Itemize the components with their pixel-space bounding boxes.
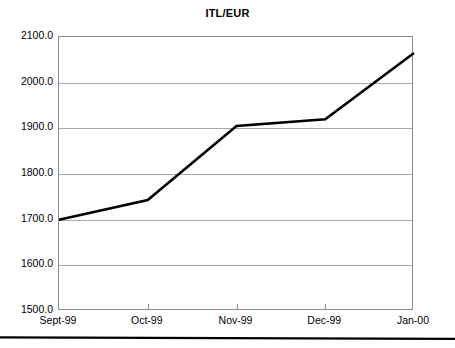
y-axis-tick-label: 1700.0 [3, 213, 53, 224]
y-axis-tick-label: 1900.0 [3, 121, 53, 132]
chart-figure: ITL/EUR 1500.01600.01700.01800.01900.020… [0, 0, 455, 348]
x-axis-tick-label: Jan-00 [373, 314, 453, 326]
y-axis-tick-label: 2000.0 [3, 76, 53, 87]
y-axis-tick-label: 1600.0 [3, 258, 53, 269]
bottom-rule-divider [0, 336, 455, 340]
data-series-line [59, 37, 414, 311]
chart-title: ITL/EUR [0, 7, 455, 19]
y-axis-tick-label: 2100.0 [3, 30, 53, 41]
y-axis-tick-label: 1800.0 [3, 167, 53, 178]
x-axis-tick-label: Dec-99 [284, 314, 364, 326]
x-axis-tick-label: Nov-99 [196, 314, 276, 326]
series-polyline-itl-eur [59, 53, 414, 220]
plot-area [58, 36, 413, 310]
x-axis-tick-label: Oct-99 [107, 314, 187, 326]
x-axis-tick-label: Sept-99 [18, 314, 98, 326]
y-axis-tick-labels: 1500.01600.01700.01800.01900.02000.02100… [0, 0, 53, 348]
